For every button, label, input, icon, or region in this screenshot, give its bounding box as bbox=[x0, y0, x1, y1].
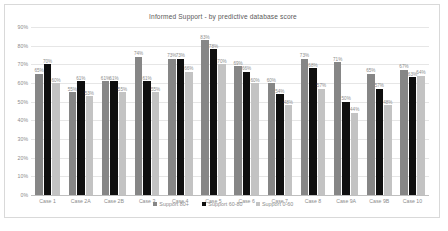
bar-support-0-60[interactable]: 44% bbox=[351, 113, 359, 195]
bar-data-label: 73% bbox=[176, 53, 185, 58]
bar-data-label: 66% bbox=[242, 66, 251, 71]
bar-data-label: 74% bbox=[134, 51, 143, 56]
bar-support-80[interactable]: 60% bbox=[268, 83, 276, 195]
bar-data-label: 66% bbox=[184, 66, 193, 71]
bar-groups: 65%70%60%Case 155%61%53%Case 2A61%61%55%… bbox=[31, 27, 429, 195]
bar-support-60-80[interactable]: 54% bbox=[276, 94, 284, 195]
bar-group: 73%68%57%Case 8 bbox=[296, 27, 329, 195]
bar-group: 74%61%55%Case 3 bbox=[131, 27, 164, 195]
bar-data-label: 48% bbox=[284, 100, 293, 105]
bar-support-80[interactable]: 73% bbox=[301, 59, 309, 195]
legend-swatch-icon bbox=[256, 202, 260, 206]
legend-label: Support 60-80 bbox=[208, 201, 242, 207]
legend-item[interactable]: Support 60-80 bbox=[202, 201, 243, 207]
legend-swatch-icon bbox=[202, 202, 206, 206]
bar-support-60-80[interactable]: 68% bbox=[309, 68, 317, 195]
bar-support-0-60[interactable]: 60% bbox=[251, 83, 259, 195]
bar-group: 71%50%44%Case 9A bbox=[330, 27, 363, 195]
bar-group: 55%61%53%Case 2A bbox=[64, 27, 97, 195]
chart-legend: Support 80+Support 60-80Support 0-60 bbox=[5, 201, 441, 207]
y-axis-tick-label: 60% bbox=[2, 80, 28, 86]
legend-label: Support 80+ bbox=[159, 201, 189, 207]
bar-data-label: 50% bbox=[342, 96, 351, 101]
bar-support-60-80[interactable]: 61% bbox=[110, 81, 118, 195]
y-axis-tick-label: 70% bbox=[2, 61, 28, 67]
bar-support-0-60[interactable]: 60% bbox=[52, 83, 60, 195]
bar-support-0-60[interactable]: 53% bbox=[86, 96, 94, 195]
bar-support-80[interactable]: 73% bbox=[168, 59, 176, 195]
y-axis-tick-label: 30% bbox=[2, 136, 28, 142]
bar-group: 65%57%48%Case 9B bbox=[363, 27, 396, 195]
bar-data-label: 65% bbox=[366, 68, 375, 73]
y-axis-tick-label: 20% bbox=[2, 155, 28, 161]
bar-data-label: 61% bbox=[142, 76, 151, 81]
bar-support-80[interactable]: 65% bbox=[35, 74, 43, 195]
bar-data-label: 83% bbox=[200, 35, 209, 40]
bar-data-label: 64% bbox=[416, 70, 425, 75]
bar-support-0-60[interactable]: 57% bbox=[318, 89, 326, 195]
y-axis-tick-label: 90% bbox=[2, 24, 28, 30]
bar-support-80[interactable]: 61% bbox=[102, 81, 110, 195]
bar-data-label: 68% bbox=[308, 63, 317, 68]
bar-support-80[interactable]: 74% bbox=[135, 57, 143, 195]
bar-support-0-60[interactable]: 48% bbox=[285, 105, 293, 195]
bar-data-label: 55% bbox=[151, 87, 160, 92]
bar-group: 67%63%64%Case 10 bbox=[396, 27, 429, 195]
bar-data-label: 44% bbox=[350, 107, 359, 112]
bar-support-60-80[interactable]: 73% bbox=[177, 59, 185, 195]
bar-data-label: 71% bbox=[333, 57, 342, 62]
bar-data-label: 60% bbox=[267, 78, 276, 83]
bar-data-label: 61% bbox=[109, 76, 118, 81]
bar-data-label: 65% bbox=[34, 68, 43, 73]
bar-data-label: 55% bbox=[118, 87, 127, 92]
bar-data-label: 57% bbox=[317, 83, 326, 88]
bar-data-label: 69% bbox=[234, 61, 243, 66]
y-axis-tick-label: 40% bbox=[2, 117, 28, 123]
bar-support-80[interactable]: 55% bbox=[69, 92, 77, 195]
bar-data-label: 73% bbox=[300, 53, 309, 58]
bar-support-0-60[interactable]: 48% bbox=[384, 105, 392, 195]
legend-label: Support 0-60 bbox=[262, 201, 293, 207]
bar-support-60-80[interactable]: 57% bbox=[376, 89, 384, 195]
bar-support-80[interactable]: 83% bbox=[201, 40, 209, 195]
bar-support-80[interactable]: 69% bbox=[234, 66, 242, 195]
x-axis-line bbox=[31, 195, 429, 196]
bar-group: 83%78%70%Case 5 bbox=[197, 27, 230, 195]
plot-area: 90%80%70%60%50%40%30%20%10%0% 65%70%60%C… bbox=[31, 27, 429, 195]
bar-support-80[interactable]: 65% bbox=[367, 74, 375, 195]
bar-support-80[interactable]: 67% bbox=[400, 70, 408, 195]
bar-support-0-60[interactable]: 66% bbox=[185, 72, 193, 195]
bar-data-label: 57% bbox=[375, 83, 384, 88]
bar-group: 60%54%48%Case 7 bbox=[263, 27, 296, 195]
bar-data-label: 55% bbox=[68, 87, 77, 92]
y-axis-tick-label: 80% bbox=[2, 43, 28, 49]
bar-data-label: 53% bbox=[85, 91, 94, 96]
bar-support-0-60[interactable]: 55% bbox=[152, 92, 160, 195]
bar-data-label: 61% bbox=[76, 76, 85, 81]
bar-support-60-80[interactable]: 61% bbox=[143, 81, 151, 195]
bar-group: 65%70%60%Case 1 bbox=[31, 27, 64, 195]
bar-support-0-60[interactable]: 55% bbox=[119, 92, 127, 195]
legend-item[interactable]: Support 0-60 bbox=[256, 201, 294, 207]
bar-support-80[interactable]: 71% bbox=[334, 62, 342, 195]
legend-item[interactable]: Support 80+ bbox=[153, 201, 189, 207]
bar-data-label: 67% bbox=[399, 64, 408, 69]
bar-support-60-80[interactable]: 78% bbox=[210, 49, 218, 195]
bar-data-label: 78% bbox=[209, 44, 218, 49]
bar-data-label: 70% bbox=[217, 59, 226, 64]
y-axis-tick-label: 0% bbox=[2, 192, 28, 198]
y-axis-tick-label: 50% bbox=[2, 99, 28, 105]
bar-support-60-80[interactable]: 63% bbox=[409, 77, 417, 195]
y-axis-tick-label: 10% bbox=[2, 173, 28, 179]
bar-support-60-80[interactable]: 70% bbox=[44, 64, 52, 195]
bar-support-60-80[interactable]: 61% bbox=[77, 81, 85, 195]
bar-group: 61%61%55%Case 2B bbox=[97, 27, 130, 195]
bar-support-0-60[interactable]: 70% bbox=[218, 64, 226, 195]
bar-support-0-60[interactable]: 64% bbox=[417, 76, 425, 195]
bar-support-60-80[interactable]: 50% bbox=[342, 102, 350, 195]
bar-data-label: 60% bbox=[51, 78, 60, 83]
legend-swatch-icon bbox=[153, 202, 157, 206]
bar-support-60-80[interactable]: 66% bbox=[243, 72, 251, 195]
chart-frame: Informed Support - by predictive databas… bbox=[4, 4, 440, 218]
bar-group: 69%66%60%Case 6 bbox=[230, 27, 263, 195]
